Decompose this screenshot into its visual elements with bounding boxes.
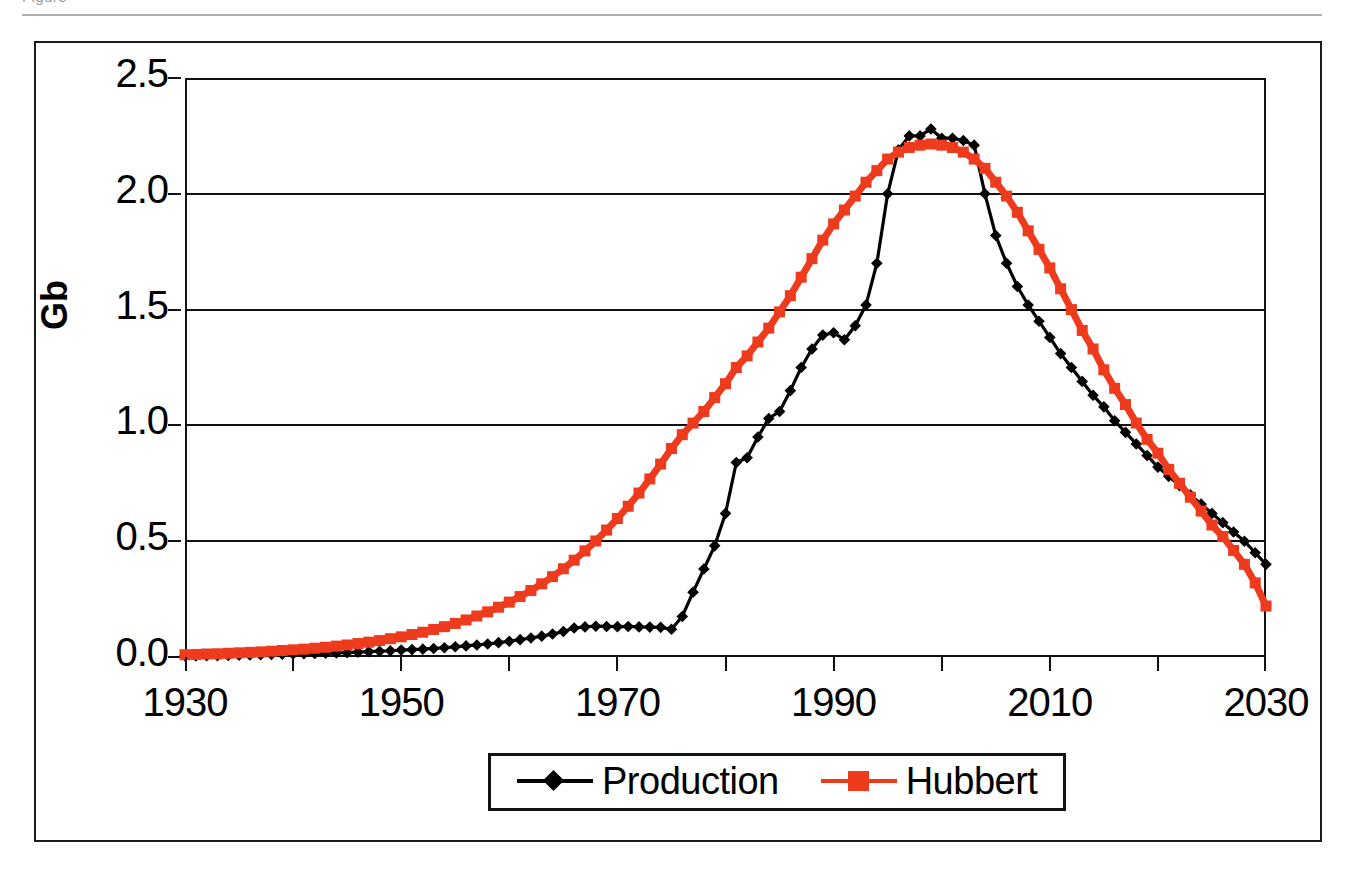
data-point-diamond bbox=[558, 626, 570, 638]
data-point-square bbox=[320, 642, 331, 653]
data-point-diamond bbox=[504, 635, 516, 647]
y-axis-tick-label: 1.5 bbox=[115, 283, 168, 328]
data-point-square bbox=[925, 139, 936, 150]
y-axis-tick bbox=[168, 309, 181, 311]
data-point-diamond bbox=[406, 644, 418, 656]
series-line bbox=[185, 144, 1266, 655]
data-point-square bbox=[1239, 559, 1250, 570]
data-point-diamond bbox=[990, 230, 1002, 242]
data-point-square bbox=[688, 418, 699, 429]
legend-label-production: Production bbox=[602, 762, 779, 800]
data-point-square bbox=[720, 378, 731, 389]
data-point-square bbox=[806, 253, 817, 264]
data-point-square bbox=[904, 142, 915, 153]
data-point-square bbox=[1012, 207, 1023, 218]
data-point-square bbox=[396, 631, 407, 642]
data-point-square bbox=[742, 350, 753, 361]
x-axis-tick bbox=[1264, 657, 1266, 671]
data-point-square bbox=[417, 627, 428, 638]
data-point-square bbox=[601, 525, 612, 536]
data-point-diamond bbox=[720, 508, 732, 520]
data-point-square bbox=[1044, 262, 1055, 273]
data-point-square bbox=[288, 644, 299, 655]
data-point-diamond bbox=[460, 640, 472, 652]
data-point-square bbox=[1250, 577, 1261, 588]
data-point-square bbox=[850, 191, 861, 202]
data-point-diamond bbox=[979, 188, 991, 200]
data-point-diamond bbox=[601, 621, 613, 633]
header-divider bbox=[22, 14, 1322, 16]
data-point-square bbox=[1174, 478, 1185, 489]
data-point-square bbox=[1131, 418, 1142, 429]
data-point-square bbox=[515, 591, 526, 602]
data-point-diamond bbox=[374, 645, 386, 657]
data-point-square bbox=[277, 645, 288, 656]
data-point-diamond bbox=[612, 621, 624, 633]
data-point-square bbox=[1196, 506, 1207, 517]
data-point-square bbox=[266, 646, 277, 657]
x-axis-tick bbox=[616, 657, 618, 671]
data-point-square bbox=[298, 644, 309, 655]
x-axis-tick-label: 1990 bbox=[791, 680, 876, 725]
data-point-square bbox=[493, 602, 504, 613]
data-point-square bbox=[655, 459, 666, 470]
data-point-diamond bbox=[958, 135, 970, 147]
y-axis-tick bbox=[168, 193, 181, 195]
data-point-square bbox=[482, 606, 493, 617]
data-point-square bbox=[374, 635, 385, 646]
y-axis-tick-label: 2.0 bbox=[115, 167, 168, 212]
data-point-diamond bbox=[644, 621, 656, 633]
data-point-square bbox=[1206, 519, 1217, 530]
data-point-diamond bbox=[871, 257, 883, 269]
data-point-square bbox=[709, 392, 720, 403]
data-point-square bbox=[1217, 531, 1228, 542]
data-point-square bbox=[428, 624, 439, 635]
data-point-diamond bbox=[741, 452, 753, 464]
chart-series-layer bbox=[185, 78, 1266, 657]
y-axis-labels: 0.00.51.01.52.02.5 bbox=[0, 78, 168, 657]
data-point-square bbox=[1120, 399, 1131, 410]
y-axis-tick-label: 1.0 bbox=[115, 398, 168, 443]
data-point-diamond bbox=[525, 632, 537, 644]
legend-item-hubbert[interactable]: Hubbert bbox=[821, 762, 1038, 800]
data-point-square bbox=[634, 488, 645, 499]
data-point-square bbox=[450, 618, 461, 629]
y-axis-tick-label: 0.0 bbox=[115, 630, 168, 675]
data-point-square bbox=[796, 272, 807, 283]
data-point-square bbox=[309, 643, 320, 654]
legend-item-production[interactable]: Production bbox=[517, 762, 779, 800]
data-point-square bbox=[385, 633, 396, 644]
data-point-square bbox=[677, 429, 688, 440]
x-axis-tick-label: 1930 bbox=[143, 680, 228, 725]
data-point-square bbox=[612, 513, 623, 524]
data-point-diamond bbox=[547, 628, 559, 640]
x-axis-labels: 193019501970199020102030 bbox=[0, 680, 1350, 740]
data-point-square bbox=[1055, 283, 1066, 294]
data-point-diamond bbox=[590, 620, 602, 632]
data-point-diamond bbox=[428, 643, 440, 655]
y-axis-tick-label: 0.5 bbox=[115, 514, 168, 559]
data-point-diamond bbox=[385, 645, 397, 657]
data-point-square bbox=[1261, 601, 1272, 612]
data-point-square bbox=[547, 571, 558, 582]
data-point-square bbox=[763, 323, 774, 334]
data-point-square bbox=[590, 535, 601, 546]
header-cropped-text: Figure bbox=[22, 0, 67, 5]
data-point-square bbox=[331, 641, 342, 652]
x-axis-ticks bbox=[185, 657, 1266, 673]
x-axis-tick bbox=[941, 657, 943, 671]
y-axis-tick bbox=[168, 424, 181, 426]
data-point-diamond bbox=[471, 639, 483, 651]
y-axis-tick bbox=[168, 540, 181, 542]
data-point-square bbox=[731, 362, 742, 373]
data-point-square bbox=[461, 614, 472, 625]
data-point-diamond bbox=[709, 540, 721, 552]
data-point-diamond bbox=[860, 299, 872, 311]
data-point-square bbox=[1001, 191, 1012, 202]
data-point-diamond bbox=[514, 634, 526, 646]
data-point-diamond bbox=[731, 457, 743, 469]
x-axis-tick bbox=[833, 657, 835, 671]
series-line bbox=[185, 129, 1266, 656]
data-point-diamond bbox=[395, 644, 407, 656]
legend-marker-square-icon bbox=[821, 770, 897, 792]
